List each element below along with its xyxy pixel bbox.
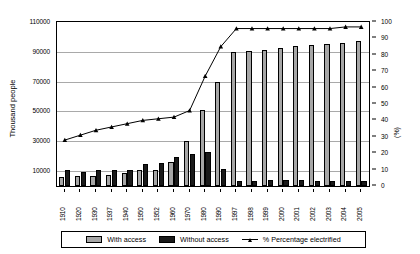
legend-label-with-access: With access bbox=[107, 235, 146, 244]
x-axis-tick-label: 1920 bbox=[75, 207, 82, 221]
y-axis-tick-label: 110000 bbox=[29, 18, 50, 25]
x-axis-tick bbox=[189, 189, 190, 192]
x-axis-tick-label: 1940 bbox=[122, 207, 129, 221]
y-axis-right-tick-label: 0 bbox=[381, 182, 385, 189]
black-square-swatch bbox=[159, 236, 175, 243]
x-axis-tick-label: 1930 bbox=[91, 207, 98, 221]
x-axis-tick-label: 1952 bbox=[153, 207, 160, 221]
y-axis-tick-label: 90000 bbox=[32, 47, 50, 54]
x-axis-tick bbox=[111, 189, 112, 192]
plot-area bbox=[56, 21, 370, 187]
y-axis-right-tick-label: 70 bbox=[381, 67, 388, 74]
x-axis-tick-label: 2002 bbox=[309, 207, 316, 221]
x-axis-tick bbox=[298, 189, 299, 192]
y-axis-right-tick-label: 60 bbox=[381, 83, 388, 90]
x-axis-tick bbox=[251, 189, 252, 192]
x-axis-tick bbox=[329, 189, 330, 192]
chart-figure: 1000030000500007000090000110000 Thousand… bbox=[0, 0, 420, 254]
x-axis-tick-label: 1999 bbox=[262, 207, 269, 221]
x-axis-tick-label: 1950 bbox=[137, 207, 144, 221]
y-axis-right-title: (%) bbox=[393, 127, 400, 138]
percentage-line-series bbox=[57, 22, 369, 186]
x-axis-tick bbox=[235, 189, 236, 192]
y-axis-right-tick bbox=[372, 53, 376, 54]
chart-legend: With access Without access % Percentage … bbox=[61, 231, 366, 248]
x-axis-labels: 1910192019301937194019501952196019701980… bbox=[56, 189, 370, 223]
x-axis-tick-label: 2003 bbox=[325, 207, 332, 221]
legend-item-percentage-electrified: % Percentage electrified bbox=[242, 235, 341, 244]
x-axis-tick-label: 1960 bbox=[169, 207, 176, 221]
x-axis-tick bbox=[126, 189, 127, 192]
y-axis-right-tick bbox=[372, 86, 376, 87]
y-axis-right-tick bbox=[372, 37, 376, 38]
x-axis-tick-label: 1997 bbox=[231, 207, 238, 221]
y-axis-right-tick-label: 100 bbox=[381, 18, 392, 25]
y-axis-tick-label: 30000 bbox=[32, 137, 50, 144]
x-axis-tick bbox=[220, 189, 221, 192]
line-marker bbox=[187, 108, 192, 112]
x-axis-tick-label: 1998 bbox=[247, 207, 254, 221]
y-axis-right-tick bbox=[372, 119, 376, 120]
x-axis-tick-label: 1910 bbox=[59, 207, 66, 221]
y-axis-right-tick-label: 30 bbox=[381, 132, 388, 139]
legend-item-without-access: Without access bbox=[159, 235, 229, 244]
x-axis-tick-label: 1990 bbox=[215, 207, 222, 221]
x-axis-tick-label: 1937 bbox=[106, 207, 113, 221]
x-axis-tick-label: 2001 bbox=[293, 207, 300, 221]
x-axis-tick-label: 1970 bbox=[184, 207, 191, 221]
legend-label-percentage-electrified: % Percentage electrified bbox=[263, 235, 341, 244]
x-axis-tick bbox=[313, 189, 314, 192]
x-axis-tick bbox=[204, 189, 205, 192]
x-axis-tick-label: 2005 bbox=[356, 207, 363, 221]
x-axis-tick bbox=[142, 189, 143, 192]
x-axis-tick bbox=[157, 189, 158, 192]
y-axis-right-tick bbox=[372, 21, 376, 22]
y-axis-tick-label: 50000 bbox=[32, 107, 50, 114]
x-axis-tick-label: 1980 bbox=[200, 207, 207, 221]
y-axis-title: Thousand people bbox=[8, 61, 17, 157]
y-axis-right-tick bbox=[372, 152, 376, 153]
y-axis-right-tick bbox=[372, 168, 376, 169]
x-axis-tick bbox=[345, 189, 346, 192]
x-axis-tick bbox=[282, 189, 283, 192]
y-axis-tick-label: 70000 bbox=[32, 77, 50, 84]
y-axis-right-tick bbox=[372, 185, 376, 186]
y-axis-right-tick-label: 80 bbox=[381, 50, 388, 57]
y-axis-right-tick bbox=[372, 70, 376, 71]
gray-square-swatch bbox=[86, 236, 102, 243]
x-axis-tick bbox=[267, 189, 268, 192]
y-axis-right: 0102030405060708090100 bbox=[372, 0, 420, 210]
y-axis-right-tick bbox=[372, 135, 376, 136]
y-axis-right-tick-label: 90 bbox=[381, 34, 388, 41]
y-axis-right-tick-label: 40 bbox=[381, 116, 388, 123]
x-axis-tick bbox=[79, 189, 80, 192]
y-axis-right-tick-label: 10 bbox=[381, 165, 388, 172]
y-axis-right-tick-label: 20 bbox=[381, 149, 388, 156]
line-marker-swatch bbox=[242, 236, 258, 243]
legend-label-without-access: Without access bbox=[180, 235, 229, 244]
x-axis-tick bbox=[173, 189, 174, 192]
x-axis-tick-label: 2004 bbox=[340, 207, 347, 221]
x-axis-tick-label: 2000 bbox=[278, 207, 285, 221]
x-axis-tick bbox=[360, 189, 361, 192]
legend-item-with-access: With access bbox=[86, 235, 146, 244]
x-axis-tick bbox=[95, 189, 96, 192]
y-axis-right-tick-label: 50 bbox=[381, 100, 388, 107]
y-axis-tick-label: 10000 bbox=[32, 167, 50, 174]
x-axis-tick bbox=[64, 189, 65, 192]
y-axis-right-tick bbox=[372, 103, 376, 104]
line-marker bbox=[203, 74, 208, 78]
